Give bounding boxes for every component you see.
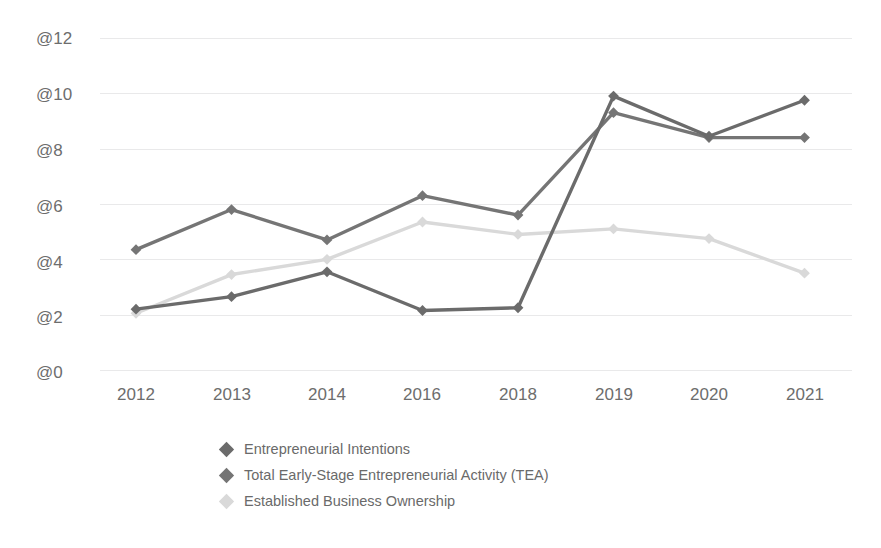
y-tick-label: @0 bbox=[36, 364, 94, 381]
data-point-marker[interactable] bbox=[704, 233, 715, 244]
y-tick-label: @8 bbox=[36, 142, 94, 159]
series-line bbox=[136, 222, 805, 313]
series-group bbox=[131, 107, 810, 255]
data-point-marker[interactable] bbox=[131, 244, 142, 255]
legend-item[interactable]: Total Early-Stage Entrepreneurial Activi… bbox=[218, 464, 549, 486]
data-point-marker[interactable] bbox=[417, 305, 428, 316]
data-point-marker[interactable] bbox=[799, 95, 810, 106]
x-tick-label: 2013 bbox=[187, 386, 277, 403]
line-chart: @12 @10 @8 @6 @4 @2 @0 2012 2013 2014 20… bbox=[0, 0, 881, 548]
x-tick-label: 2021 bbox=[760, 386, 850, 403]
x-tick-label: 2019 bbox=[569, 386, 659, 403]
y-tick-label: @10 bbox=[36, 86, 94, 103]
data-point-marker[interactable] bbox=[799, 268, 810, 279]
legend-label: Entrepreneurial Intentions bbox=[244, 442, 410, 457]
y-tick-label: @2 bbox=[36, 309, 94, 326]
data-point-marker[interactable] bbox=[608, 224, 619, 235]
data-point-marker[interactable] bbox=[608, 91, 619, 102]
diamond-marker-icon bbox=[218, 467, 235, 484]
data-point-marker[interactable] bbox=[226, 269, 237, 280]
y-tick-label: @6 bbox=[36, 198, 94, 215]
data-point-marker[interactable] bbox=[513, 302, 524, 313]
legend-item[interactable]: Established Business Ownership bbox=[218, 490, 549, 512]
data-point-marker[interactable] bbox=[322, 235, 333, 246]
data-point-marker[interactable] bbox=[226, 204, 237, 215]
x-tick-label: 2012 bbox=[91, 386, 181, 403]
legend-item[interactable]: Entrepreneurial Intentions bbox=[218, 438, 549, 460]
legend-label: Established Business Ownership bbox=[244, 494, 455, 509]
data-point-marker[interactable] bbox=[799, 132, 810, 143]
diamond-marker-icon bbox=[218, 493, 235, 510]
diamond-marker-icon bbox=[218, 441, 235, 458]
series-line bbox=[136, 96, 805, 310]
y-tick-label: @12 bbox=[36, 30, 94, 47]
series-plot bbox=[100, 38, 852, 370]
x-tick-label: 2014 bbox=[282, 386, 372, 403]
x-tick-label: 2020 bbox=[664, 386, 754, 403]
gridline bbox=[100, 370, 852, 371]
x-tick-label: 2018 bbox=[473, 386, 563, 403]
data-point-marker[interactable] bbox=[322, 266, 333, 277]
x-tick-label: 2016 bbox=[377, 386, 467, 403]
data-point-marker[interactable] bbox=[704, 131, 715, 142]
plot-area bbox=[100, 38, 852, 370]
data-point-marker[interactable] bbox=[322, 254, 333, 265]
legend-label: Total Early-Stage Entrepreneurial Activi… bbox=[244, 468, 549, 483]
y-tick-label: @4 bbox=[36, 254, 94, 271]
data-point-marker[interactable] bbox=[513, 229, 524, 240]
data-point-marker[interactable] bbox=[417, 190, 428, 201]
series-group bbox=[131, 91, 810, 316]
series-group bbox=[131, 217, 810, 319]
data-point-marker[interactable] bbox=[226, 291, 237, 302]
chart-legend: Entrepreneurial Intentions Total Early-S… bbox=[218, 438, 549, 512]
data-point-marker[interactable] bbox=[417, 217, 428, 228]
